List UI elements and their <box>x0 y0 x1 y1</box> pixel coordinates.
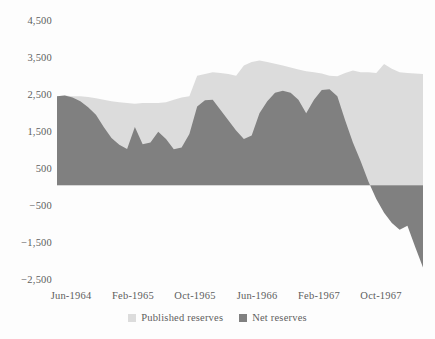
area-series-canvas <box>57 14 423 288</box>
y-axis: 4,500 3,500 2,500 1,500 500 −500 −1,500 … <box>0 0 52 300</box>
x-axis-tick: Oct-1967 <box>360 290 401 301</box>
y-axis-tick: 4,500 <box>27 15 52 26</box>
x-axis-tick: Feb-1967 <box>298 290 340 301</box>
y-axis-tick: −1,500 <box>21 237 52 248</box>
y-axis-tick: −2,500 <box>21 274 52 285</box>
x-axis-tick: Jun-1966 <box>237 290 278 301</box>
x-axis-tick: Feb-1965 <box>112 290 154 301</box>
y-axis-tick: −500 <box>30 200 52 211</box>
x-axis-tick: Jun-1964 <box>51 290 92 301</box>
x-axis-tick: Oct-1965 <box>174 290 215 301</box>
legend-label: Published reserves <box>141 312 223 323</box>
legend-swatch-icon <box>239 314 247 322</box>
legend-label: Net reserves <box>252 312 307 323</box>
y-axis-tick: 500 <box>36 163 52 174</box>
y-axis-tick: 1,500 <box>27 126 52 137</box>
plot-area <box>57 14 423 288</box>
legend-item-net-reserves[interactable]: Net reserves <box>239 312 307 323</box>
x-axis: Jun-1964 Feb-1965 Oct-1965 Jun-1966 Feb-… <box>0 290 435 306</box>
y-axis-tick: 3,500 <box>27 52 52 63</box>
legend-item-published-reserves[interactable]: Published reserves <box>128 312 223 323</box>
y-axis-tick: 2,500 <box>27 89 52 100</box>
chart-legend: Published reserves Net reserves <box>0 312 435 323</box>
legend-swatch-icon <box>128 314 136 322</box>
reserves-area-chart: 4,500 3,500 2,500 1,500 500 −500 −1,500 … <box>0 0 435 339</box>
